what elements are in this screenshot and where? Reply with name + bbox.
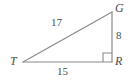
side-length-label-vertical-leg: 8 <box>116 30 122 41</box>
right-angle-marker-icon <box>103 53 112 62</box>
vertex-label-R: R <box>115 55 122 67</box>
side-length-label-base: 15 <box>57 66 68 77</box>
vertex-label-G: G <box>115 2 124 14</box>
side-length-label-hypotenuse: 17 <box>51 17 62 28</box>
vertex-label-T: T <box>10 55 17 67</box>
hypotenuse-line <box>23 12 112 62</box>
triangle-figure: T G R 17 8 15 <box>0 0 130 81</box>
